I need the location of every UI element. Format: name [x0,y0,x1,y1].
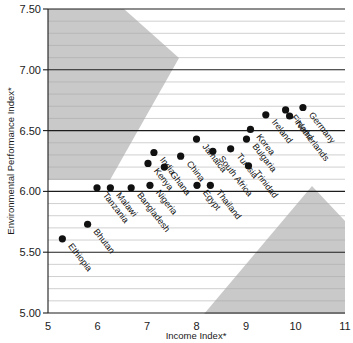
data-point [193,136,200,143]
x-tick-label: 5 [45,320,51,332]
y-tick-label: 5.00 [20,307,41,319]
x-tick-label: 7 [144,320,150,332]
upper-left-shaded-band [48,9,179,180]
y-axis-tick-labels: 7.507.006.506.005.505.00 [20,3,48,319]
x-tick-label: 11 [339,320,350,332]
scatter-chart: EthiopiaBhutanTanzaniaMalawiBangladeshKe… [0,0,353,343]
y-tick-label: 6.50 [20,125,41,137]
plot-area: EthiopiaBhutanTanzaniaMalawiBangladeshKe… [0,0,353,343]
data-point [262,111,269,118]
data-point [146,182,153,189]
data-point [247,126,254,133]
data-point-label: Trinidad [252,168,280,200]
data-point [93,184,100,191]
y-axis-title: Environmental Performance Index* [5,87,16,235]
data-point [150,149,157,156]
data-point [84,221,91,228]
y-tick-label: 7.00 [20,64,41,76]
data-point [227,145,234,152]
data-point [128,184,135,191]
data-point-label: Ethiopia [66,241,94,273]
x-tick-label: 9 [243,320,249,332]
y-tick-label: 7.50 [20,3,41,15]
y-tick-label: 6.00 [20,185,41,197]
data-point-label: Ireland [270,117,295,145]
data-point [243,136,250,143]
data-point [144,160,151,167]
data-point [59,235,66,242]
data-point [299,104,306,111]
data-point-label: China [185,159,207,184]
x-axis-title: Income Index* [166,330,227,341]
y-tick-label: 5.50 [20,246,41,258]
x-tick-label: 6 [94,320,100,332]
data-point [282,106,289,113]
data-point [177,153,184,160]
data-point-label: Bhutan [92,227,117,256]
x-tick-label: 10 [289,320,301,332]
